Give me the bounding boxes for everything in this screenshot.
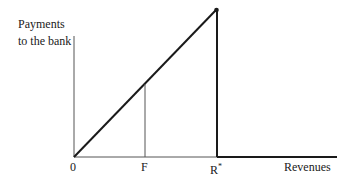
tick-r-label: R bbox=[210, 163, 218, 177]
tick-origin: 0 bbox=[70, 160, 76, 174]
tick-r-star: R* bbox=[210, 160, 222, 177]
tick-f: F bbox=[141, 160, 148, 174]
chart-plot bbox=[0, 0, 353, 179]
x-axis-label: Revenues bbox=[284, 160, 331, 174]
tick-r-superscript: * bbox=[218, 162, 222, 171]
max-payment-point bbox=[214, 8, 219, 13]
